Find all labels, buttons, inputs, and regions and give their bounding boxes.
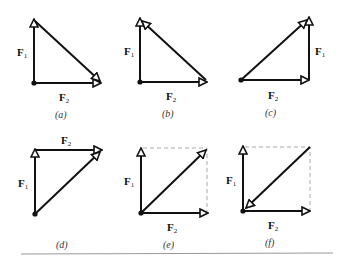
origin-dot [240, 208, 245, 213]
caption-e: (e) [163, 239, 175, 251]
resultant-vector [35, 152, 100, 214]
resultant-vector [141, 150, 206, 213]
caption-f: (f) [265, 237, 275, 249]
closing-vector [35, 21, 100, 81]
f1-label: F1 [315, 45, 326, 59]
origin-dot [32, 211, 37, 216]
panel-f: F1 F2 (f) [226, 146, 310, 249]
origin-dot [238, 77, 243, 82]
f1-label: F1 [124, 175, 135, 189]
f1-label: F1 [226, 174, 237, 188]
origin-dot [31, 80, 36, 85]
closing-vector [142, 21, 206, 80]
caption-d: (d) [56, 239, 68, 251]
f2-label: F2 [61, 134, 72, 148]
f2-label: F2 [268, 89, 279, 103]
f1-label: F1 [18, 177, 29, 191]
f1-label: F1 [17, 46, 28, 60]
panel-a: F1 F2 (a) [17, 19, 101, 121]
panel-d: F1 F2 (d) [18, 134, 102, 251]
f2-label: F2 [167, 221, 178, 235]
panel-c: F1 F2 (c) [238, 17, 325, 119]
resultant-vector [241, 20, 307, 80]
reverse-diagonal-vector [246, 147, 310, 208]
panel-b: F1 F2 (b) [124, 18, 207, 120]
caption-b: (b) [162, 108, 174, 120]
panel-e: F1 F2 (e) [124, 148, 208, 251]
origin-dot [138, 210, 143, 215]
f2-label: F2 [166, 90, 177, 104]
caption-a: (a) [55, 109, 67, 121]
f2-label: F2 [59, 91, 70, 105]
caption-c: (c) [265, 107, 277, 119]
origin-dot [137, 79, 142, 84]
vector-addition-figure: F1 F2 (a) F1 F2 (b) F1 F2 (c) F1 F2 (d) [0, 0, 344, 264]
f1-label: F1 [124, 45, 135, 59]
f2-label: F2 [268, 219, 279, 233]
bottom-rule [21, 253, 333, 254]
